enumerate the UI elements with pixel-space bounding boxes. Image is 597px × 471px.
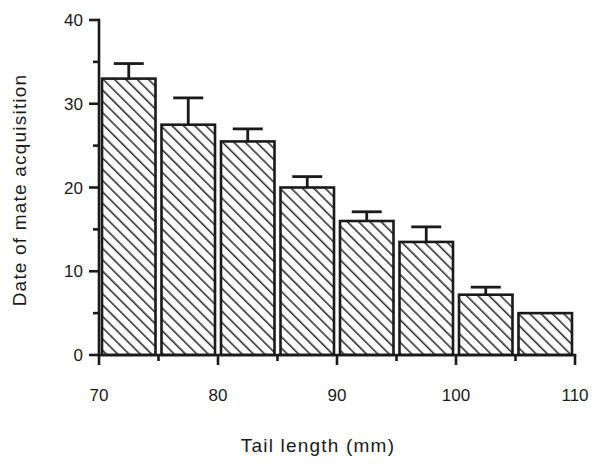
x-axis-title: Tail length (mm) [241,435,395,456]
y-tick-label: 10 [64,262,83,281]
y-tick-label: 0 [74,346,83,365]
y-tick-label: 30 [64,95,83,114]
y-axis-title: Date of mate acquisition [9,74,30,307]
bar [340,221,394,355]
y-tick-label: 40 [64,11,83,30]
bar [162,125,216,355]
chart-figure: 010203040 708090100110 Date of mate acqu… [0,0,597,471]
x-tick-label: 90 [328,386,347,405]
bar [102,79,156,355]
x-tick-label: 80 [209,386,228,405]
x-tick-label: 100 [442,386,470,405]
bar [281,188,335,356]
bar [519,313,573,355]
bar [459,295,513,355]
bar-chart: 010203040 708090100110 Date of mate acqu… [0,0,597,471]
x-tick-label: 70 [90,386,109,405]
x-tick-label: 110 [561,386,588,405]
y-tick-label: 20 [64,179,83,198]
bar [221,141,275,355]
bar [400,242,454,355]
